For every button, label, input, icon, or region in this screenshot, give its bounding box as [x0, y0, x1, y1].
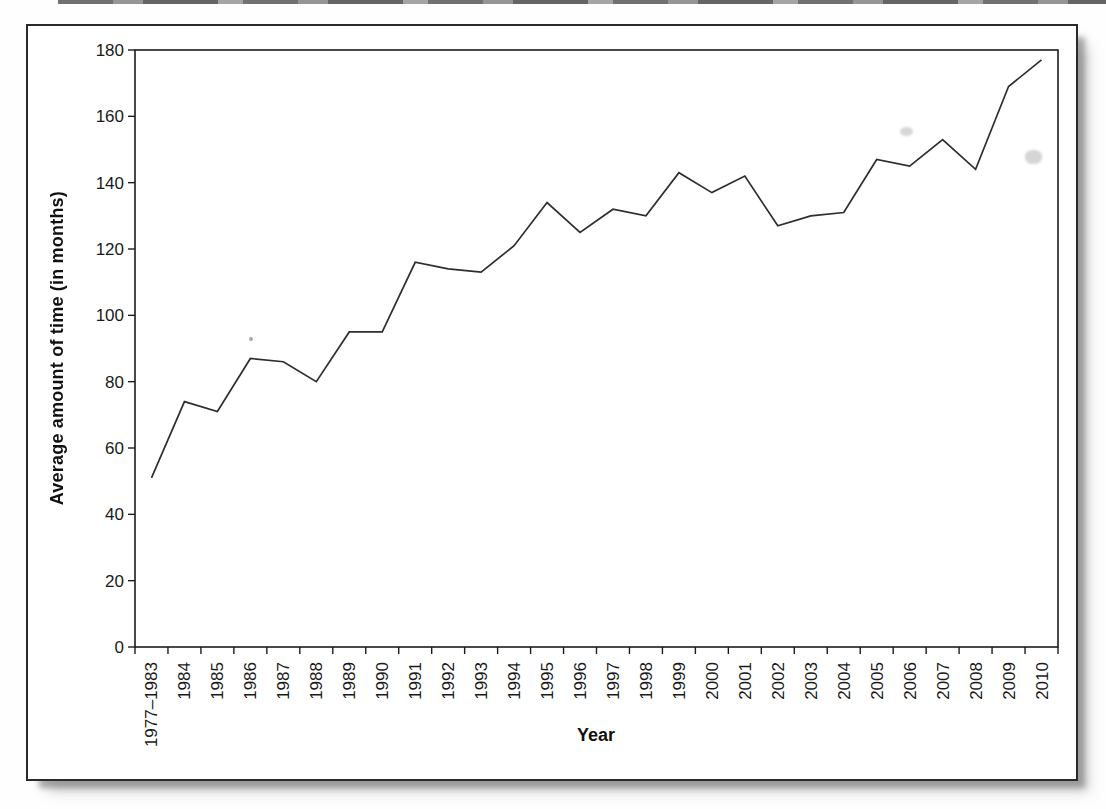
- x-tick-label: 2004: [835, 662, 854, 700]
- x-tick-label: 1997: [604, 662, 623, 700]
- x-tick-label: 2007: [934, 662, 953, 700]
- x-axis-title: Year: [577, 725, 615, 746]
- x-tick-label: 2006: [901, 662, 920, 700]
- x-tick-label: 2003: [802, 662, 821, 700]
- y-tick-label: 60: [105, 439, 124, 458]
- x-tick-label: 1987: [274, 662, 293, 700]
- y-tick-label: 20: [105, 572, 124, 591]
- scan-artifact: [249, 337, 253, 341]
- chart-panel: 0204060801001201401601801977–19831984198…: [26, 24, 1078, 781]
- y-tick-label: 100: [96, 306, 124, 325]
- y-axis: 020406080100120140160180: [96, 41, 135, 657]
- x-tick-label: 1984: [175, 662, 194, 700]
- y-tick-label: 40: [105, 505, 124, 524]
- line-chart: 0204060801001201401601801977–19831984198…: [28, 26, 1076, 779]
- y-tick-label: 140: [96, 174, 124, 193]
- x-tick-label: 2008: [967, 662, 986, 700]
- y-tick-label: 80: [105, 373, 124, 392]
- x-tick-label: 1998: [637, 662, 656, 700]
- x-tick-label: 2000: [703, 662, 722, 700]
- scan-artifact: [1025, 150, 1042, 164]
- x-tick-label: 2001: [736, 662, 755, 700]
- y-tick-label: 160: [96, 107, 124, 126]
- x-tick-label: 2002: [769, 662, 788, 700]
- x-tick-label: 2005: [868, 662, 887, 700]
- y-tick-label: 0: [115, 638, 124, 657]
- scan-artifact: [900, 127, 913, 136]
- y-axis-title-text: Average amount of time (in months): [47, 191, 68, 505]
- y-axis-title: Average amount of time (in months): [42, 144, 72, 552]
- data-line: [151, 60, 1041, 478]
- y-tick-label: 120: [96, 240, 124, 259]
- x-tick-label: 1985: [208, 662, 227, 700]
- x-tick-label: 1990: [373, 662, 392, 700]
- x-tick-label: 1996: [571, 662, 590, 700]
- x-tick-label: 1999: [670, 662, 689, 700]
- scan-page-edge: [58, 0, 1106, 4]
- x-tick-label: 1988: [307, 662, 326, 700]
- x-tick-label: 1995: [538, 662, 557, 700]
- plot-border: [135, 50, 1058, 647]
- x-tick-label: 1977–1983: [142, 662, 161, 747]
- x-tick-label: 1994: [505, 662, 524, 700]
- x-tick-label: 1992: [439, 662, 458, 700]
- x-tick-label: 1991: [406, 662, 425, 700]
- y-tick-label: 180: [96, 41, 124, 60]
- x-tick-label: 1993: [472, 662, 491, 700]
- x-tick-label: 2009: [1000, 662, 1019, 700]
- x-tick-label: 1986: [241, 662, 260, 700]
- x-tick-label: 1989: [340, 662, 359, 700]
- x-tick-label: 2010: [1033, 662, 1052, 700]
